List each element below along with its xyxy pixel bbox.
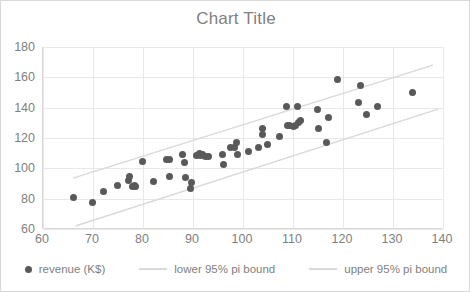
scatter-point <box>205 153 212 160</box>
scatter-point <box>187 185 194 192</box>
bound-line <box>73 65 433 178</box>
scatter-point <box>132 183 139 190</box>
scatter-point <box>220 161 227 168</box>
scatter-point <box>363 111 370 118</box>
scatter-point <box>255 144 262 151</box>
gridline-vertical <box>443 47 444 229</box>
scatter-point <box>264 141 271 148</box>
scatter-point <box>166 173 173 180</box>
scatter-point <box>234 151 241 158</box>
x-axis-tick: 90 <box>172 232 212 246</box>
legend-label: lower 95% pi bound <box>174 263 275 275</box>
x-axis-tick: 60 <box>22 232 62 246</box>
scatter-point <box>297 117 304 124</box>
x-axis-tick: 140 <box>422 232 462 246</box>
scatter-point <box>355 99 362 106</box>
bound-lines <box>43 47 443 229</box>
legend-label: upper 95% pi bound <box>344 263 447 275</box>
scatter-point <box>323 139 330 146</box>
chart-legend: revenue (K$)lower 95% pi boundupper 95% … <box>1 263 470 275</box>
legend-item[interactable]: revenue (K$) <box>25 263 105 275</box>
legend-item[interactable]: upper 95% pi bound <box>309 263 447 275</box>
scatter-point <box>233 139 240 146</box>
scatter-point <box>114 182 121 189</box>
y-axis-tick: 80 <box>1 192 35 206</box>
scatter-point <box>294 103 301 110</box>
scatter-point <box>150 178 157 185</box>
legend-item[interactable]: lower 95% pi bound <box>139 263 275 275</box>
x-axis-tick: 110 <box>272 232 312 246</box>
legend-line-icon <box>139 268 167 270</box>
bound-line <box>76 109 439 226</box>
legend-dot-icon <box>25 266 32 273</box>
x-axis-tick: 70 <box>72 232 112 246</box>
scatter-point <box>166 156 173 163</box>
scatter-point <box>276 133 283 140</box>
scatter-point <box>374 103 381 110</box>
scatter-point <box>245 148 252 155</box>
x-axis-tick: 120 <box>322 232 362 246</box>
legend-label: revenue (K$) <box>39 263 105 275</box>
scatter-point <box>100 188 107 195</box>
scatter-point <box>188 179 195 186</box>
scatter-point <box>70 194 77 201</box>
scatter-point <box>181 159 188 166</box>
scatter-point <box>315 125 322 132</box>
scatter-point <box>325 114 332 121</box>
scatter-point <box>283 103 290 110</box>
legend-line-icon <box>309 268 337 270</box>
y-axis-tick: 160 <box>1 70 35 84</box>
y-axis-tick: 100 <box>1 161 35 175</box>
scatter-point <box>409 89 416 96</box>
x-axis-tick: 130 <box>372 232 412 246</box>
scatter-point <box>89 199 96 206</box>
chart-title: Chart Title <box>1 9 470 29</box>
plot-area <box>42 47 442 229</box>
scatter-point <box>314 106 321 113</box>
y-axis-tick: 180 <box>1 40 35 54</box>
scatter-point <box>139 158 146 165</box>
chart-container: Chart Title 6080100120140160180 60708090… <box>0 0 470 292</box>
y-axis-tick: 140 <box>1 101 35 115</box>
gridline-horizontal <box>43 229 443 230</box>
x-axis-tick: 100 <box>222 232 262 246</box>
y-axis-tick: 120 <box>1 131 35 145</box>
x-axis-tick: 80 <box>122 232 162 246</box>
